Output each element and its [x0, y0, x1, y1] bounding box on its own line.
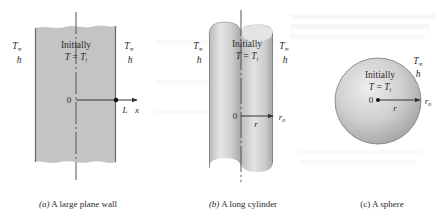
panel-plane-wall: Initially T = Ti T∞ h T∞ h 0 L x (a) A l… [12, 12, 139, 209]
sphere-ambient-temp: T∞ [413, 56, 423, 67]
cylinder-initial-temp-label: T = Ti [236, 51, 259, 62]
wall-left-h: h [17, 55, 22, 65]
cylinder-initially-label: Initially [232, 39, 262, 49]
wall-origin-label: 0 [67, 95, 72, 105]
wall-right-h: h [128, 55, 133, 65]
wall-initial-temp-label: T = Ti [65, 52, 88, 63]
x-axis-label: x [134, 105, 139, 115]
sphere-origin-label: 0 [369, 95, 374, 105]
sphere-h: h [416, 69, 421, 79]
panel-sphere: Initially T = Ti T∞ h 0 r ro (c) A spher… [335, 56, 431, 209]
cylinder-right-h: h [283, 55, 288, 65]
caption-long-cylinder: (b) A long cylinder [209, 199, 277, 209]
cylinder-r-label: r [254, 119, 258, 129]
wall-left-ambient-temp: T∞ [12, 41, 22, 52]
caption-plane-wall: (a) A large plane wall [39, 199, 117, 209]
cylinder-right-ambient-temp: T∞ [279, 41, 289, 52]
wall-right-ambient-temp: T∞ [124, 41, 134, 52]
panel-long-cylinder: Initially T = Ti T∞ h T∞ h 0 r ro (b) A … [193, 10, 289, 209]
sphere-outer-radius-label: ro [425, 96, 432, 107]
wall-initially-label: Initially [61, 40, 91, 50]
heat-conduction-figure: Initially T = Ti T∞ h T∞ h 0 L x (a) A l… [0, 0, 440, 221]
wall-thickness-label: L [121, 105, 127, 115]
wall-surface-point [114, 98, 118, 102]
caption-sphere: (c) A sphere [360, 199, 404, 209]
cylinder-origin-label: 0 [233, 111, 238, 121]
sphere-r-label: r [393, 103, 397, 113]
cylinder-left-h: h [197, 55, 202, 65]
sphere-initially-label: Initially [365, 70, 395, 80]
cylinder-outer-radius-label: ro [279, 112, 286, 123]
sphere-initial-temp-label: T = Ti [369, 82, 392, 93]
